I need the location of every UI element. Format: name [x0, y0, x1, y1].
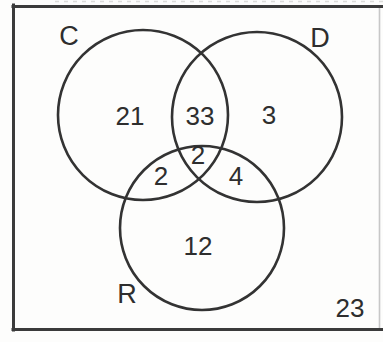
set-label-d: D: [310, 23, 330, 53]
set-label-r: R: [117, 279, 137, 309]
region-count-c-and-d: 33: [186, 101, 215, 131]
region-count-center: 2: [191, 140, 205, 170]
venn-diagram-canvas: C D R 21 33 3 2 2 4 12 23: [0, 0, 383, 342]
region-count-r-only: 12: [184, 231, 213, 261]
region-count-outside: 23: [336, 293, 365, 323]
region-count-d-and-r: 4: [229, 161, 243, 191]
region-count-c-and-r: 2: [154, 161, 168, 191]
venn-diagram: C D R 21 33 3 2 2 4 12 23: [0, 0, 383, 342]
set-label-c: C: [59, 21, 79, 51]
region-count-d-only: 3: [262, 100, 276, 130]
set-circle-r: [120, 146, 284, 310]
region-count-c-only: 21: [116, 101, 145, 131]
